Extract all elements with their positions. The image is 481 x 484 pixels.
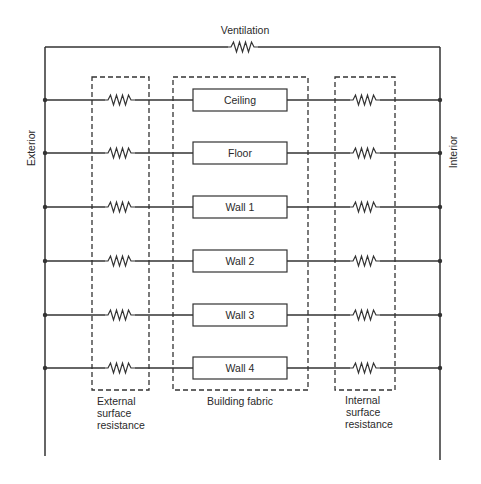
external-resistor-icon [105,95,135,105]
internal-resistor-icon [350,256,380,266]
internal-resistor-icon [350,310,380,320]
exterior-node-icon [43,205,47,209]
external-resistor-icon [105,310,135,320]
interior-node-icon [438,313,442,317]
exterior-node-icon [43,98,47,102]
element-label: Wall 4 [226,362,255,374]
internal-resistor-icon [350,363,380,373]
internal-resistor-icon [350,202,380,212]
exterior-node-icon [43,366,47,370]
svg-text:resistance: resistance [97,419,145,431]
external-resistor-icon [105,363,135,373]
element-label: Wall 3 [226,309,255,321]
internal-group-label: Internal surface resistance [345,394,393,430]
exterior-node-icon [43,151,47,155]
external-resistor-icon [105,202,135,212]
ventilation-branch [45,42,440,52]
internal-surface-resistance-group [335,77,395,390]
interior-node-icon [438,151,442,155]
interior-node-icon [438,259,442,263]
external-resistor-icon [105,256,135,266]
row-wall-1: Wall 1 [43,196,442,218]
element-label: Wall 2 [226,255,255,267]
exterior-label: Exterior [25,129,37,166]
interior-node-icon [438,205,442,209]
row-wall-3: Wall 3 [43,304,442,326]
row-wall-4: Wall 4 [43,357,442,379]
element-label: Wall 1 [226,201,255,213]
interior-node-icon [438,98,442,102]
svg-text:External: External [97,395,136,407]
external-resistor-icon [105,148,135,158]
ventilation-label: Ventilation [221,24,270,36]
row-wall-2: Wall 2 [43,250,442,272]
fabric-group-label: Building fabric [207,395,273,407]
external-surface-resistance-group [92,77,149,390]
svg-text:resistance: resistance [345,418,393,430]
thermal-network-diagram: Ventilation Exterior Interior Ceiling Fl… [0,0,481,484]
element-label: Ceiling [224,94,256,106]
building-fabric-group [173,77,308,390]
row-ceiling: Ceiling [43,89,442,111]
internal-resistor-icon [350,95,380,105]
ventilation-resistor-icon [228,42,258,52]
element-label: Floor [228,147,252,159]
svg-text:Building fabric: Building fabric [207,395,273,407]
exterior-node-icon [43,313,47,317]
svg-text:surface: surface [97,407,132,419]
svg-text:surface: surface [346,406,381,418]
internal-resistor-icon [350,148,380,158]
interior-label: Interior [447,135,459,168]
external-group-label: External surface resistance [97,395,145,431]
row-floor: Floor [43,142,442,164]
exterior-node-icon [43,259,47,263]
svg-text:Internal: Internal [345,394,380,406]
interior-node-icon [438,366,442,370]
